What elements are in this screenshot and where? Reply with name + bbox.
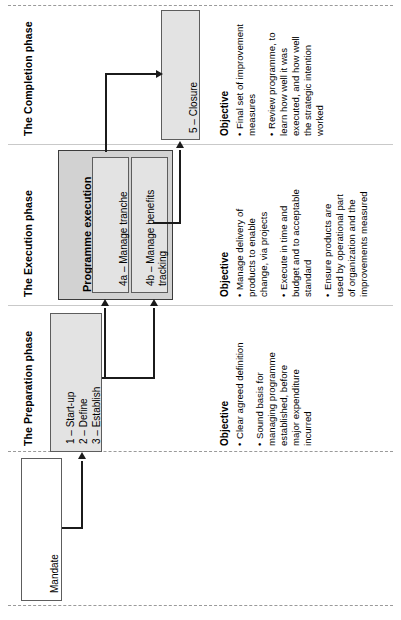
connector-preparation-to-4b (153, 308, 155, 378)
connector-4a-vertical (105, 73, 107, 152)
box-manage-tranche-label: 4a – Manage tranche (118, 191, 130, 286)
connector-preparation-spine (102, 377, 155, 379)
connector-preparation-to-4a (104, 308, 106, 378)
box-preparation-step-2: 2 – Define (78, 398, 90, 444)
box-manage-benefits-tracking-label-line-1: tracking (157, 251, 169, 286)
objective-text: Review programme, to (266, 32, 277, 129)
arrowhead-4b-to-closure (176, 141, 184, 148)
objective-item-execution-1-line-1: budget and to acceptable (290, 189, 302, 297)
objective-item-execution-2-line-1: used by operational part (334, 194, 346, 297)
objective-item-execution-2-line-2: of organization and the (346, 199, 358, 297)
arrowhead-mandate-to-preparation (78, 452, 86, 459)
objective-title-preparation: Objective (219, 401, 231, 446)
objective-item-completion-1-line-1: learn how well it was (278, 48, 290, 136)
box-preparation-steps[interactable]: 1 – Start-up 2 – Define 3 – Establish (50, 313, 102, 452)
box-mandate-label: Mandate (49, 554, 61, 593)
connector-4b-vertical (179, 150, 181, 223)
objective-item-execution-2-line-0: •Ensure products are (322, 204, 334, 297)
objective-item-completion-1-line-2: executed, and how well (290, 36, 302, 136)
objective-item-preparation-0-line-0: •Clear agreed definition (234, 342, 246, 446)
divider-top (8, 5, 393, 6)
objective-item-completion-0-line-1: measures (246, 94, 258, 136)
objective-item-completion-1-line-0: •Review programme, to (266, 32, 278, 136)
box-preparation-step-1: 1 – Start-up (65, 392, 77, 444)
box-manage-benefits-tracking-label-line-0: 4b – Manage benefits (145, 190, 157, 286)
connector-4a-horizontal (105, 73, 159, 75)
objective-item-completion-1-line-4: worked (314, 105, 326, 136)
divider-execution-preparation (8, 305, 393, 306)
objective-item-execution-0-line-0: •Manage delivery of (234, 209, 246, 297)
arrowhead-4a-to-closure (156, 70, 163, 78)
box-manage-benefits-tracking[interactable]: 4b – Manage benefits tracking (131, 157, 168, 293)
objective-item-preparation-1-line-3: major expenditure (290, 369, 302, 446)
diagram-canvas: The Completion phase The Execution phase… (0, 0, 401, 620)
box-manage-tranche[interactable]: 4a – Manage tranche (92, 157, 129, 293)
box-mandate[interactable]: Mandate (21, 458, 62, 601)
objective-text: Execute in time and (278, 206, 289, 290)
phase-label-preparation: The Preparation phase (22, 331, 35, 446)
objective-item-preparation-1-line-2: established, before (278, 365, 290, 446)
phase-label-completion: The Completion phase (22, 21, 35, 136)
objective-item-execution-0-line-2: change, via projects (258, 212, 270, 297)
box-closure-label: 5 – Closure (188, 82, 200, 133)
objective-text: Sound basis for (254, 372, 265, 439)
connector-mandate-vertical (81, 461, 83, 528)
objective-item-completion-1-line-3: the strategic intention (302, 45, 314, 136)
objective-item-preparation-1-line-1: managing programme (266, 352, 278, 446)
objective-title-execution: Objective (219, 252, 231, 297)
objective-item-preparation-1-line-4: incurred (302, 411, 314, 446)
phase-label-execution: The Execution phase (22, 190, 35, 297)
objective-item-execution-0-line-1: products to enable (246, 218, 258, 297)
objective-text: Final set of improvement (234, 24, 245, 129)
objective-item-execution-1-line-0: •Execute in time and (278, 206, 290, 297)
connector-mandate-horizontal (62, 527, 83, 529)
objective-text: Manage delivery of (234, 209, 245, 290)
divider-completion-execution (8, 144, 393, 145)
box-preparation-step-3: 3 – Establish (91, 387, 103, 444)
objective-text: Ensure products are (322, 204, 333, 290)
arrowhead-preparation-to-4b (150, 299, 158, 306)
objective-item-execution-2-line-3: improvements measured (358, 191, 370, 297)
box-closure[interactable]: 5 – Closure (161, 10, 200, 140)
connector-4b-horizontal (153, 222, 181, 224)
objective-item-preparation-1-line-0: •Sound basis for (254, 372, 266, 446)
objective-title-completion: Objective (219, 91, 231, 136)
arrowhead-preparation-to-4a (101, 299, 109, 306)
objective-item-execution-1-line-2: standard (302, 260, 314, 297)
objective-item-completion-0-line-0: •Final set of improvement (234, 24, 246, 136)
divider-bottom (8, 605, 393, 606)
objective-text: Clear agreed definition (234, 342, 245, 439)
